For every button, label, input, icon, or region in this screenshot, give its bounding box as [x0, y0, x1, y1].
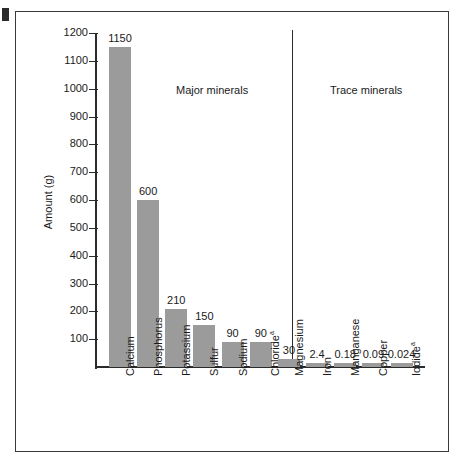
bar-chart-plot: 120011001000900800700600500400300200100 …: [0, 0, 467, 469]
y-axis-tick: [89, 144, 98, 145]
y-axis-tick: [89, 89, 98, 90]
y-axis-tick: [89, 311, 98, 312]
y-axis-tick: [89, 33, 98, 34]
y-axis-tick: [89, 172, 98, 173]
y-axis-tick-label: 1100: [48, 55, 88, 66]
section-label-trace-minerals: Trace minerals: [330, 84, 402, 96]
y-axis-tick: [89, 256, 98, 257]
bar-category-label: Phosphorus: [153, 317, 164, 376]
y-axis-tick-label: 300: [48, 278, 88, 289]
y-axis-tick: [89, 284, 98, 285]
bar-value-label: 150: [184, 311, 224, 322]
y-axis-title: Amount (g): [42, 142, 54, 262]
bar-value-label: 1150: [100, 33, 140, 44]
bar-category-label: Sulfur: [209, 347, 220, 376]
y-axis-tick-label: 900: [48, 111, 88, 122]
y-axis-tick-label: 100: [48, 333, 88, 344]
bar-value-label: 210: [156, 295, 196, 306]
group-divider-line: [292, 30, 293, 368]
y-axis-line: [95, 33, 97, 369]
bar-value-label: 600: [128, 186, 168, 197]
y-axis-tick: [89, 339, 98, 340]
y-axis-tick-label: 1200: [48, 27, 88, 38]
bar-category-label: Iron: [322, 357, 333, 376]
bar-category-label: Iodidea: [407, 342, 422, 376]
y-axis-tick: [89, 200, 98, 201]
y-axis-tick-label: 500: [48, 222, 88, 233]
y-axis-tick-label: 1000: [48, 83, 88, 94]
y-axis-tick-label: 600: [48, 194, 88, 205]
y-axis-tick-label: 400: [48, 250, 88, 261]
bar-category-label: Sodium: [238, 339, 249, 376]
y-axis-tick-label: 800: [48, 138, 88, 149]
bar: [109, 47, 131, 367]
bar-category-label: Potassium: [181, 325, 192, 376]
y-axis-tick-label: 700: [48, 166, 88, 177]
figure-canvas: 120011001000900800700600500400300200100 …: [0, 0, 467, 469]
y-axis-tick: [89, 228, 98, 229]
y-axis-tick: [89, 61, 98, 62]
y-axis-tick-label: 200: [48, 305, 88, 316]
section-label-major-minerals: Major minerals: [176, 84, 248, 96]
y-axis-tick: [89, 117, 98, 118]
bar-category-label: Manganese: [350, 319, 361, 377]
bar-category-label: Calcium: [125, 336, 136, 376]
